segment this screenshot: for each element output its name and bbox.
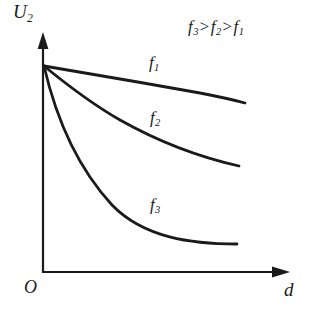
greater-than-icon: > (200, 17, 210, 36)
x-axis-arrow-icon (272, 266, 290, 277)
curve-label-f1: f1 (149, 54, 159, 71)
greater-than-icon: > (223, 17, 233, 36)
figure-container: U2 d O f3>f2>f1 f1 f2 f3 (0, 0, 311, 315)
y-axis-label: U2 (13, 2, 33, 21)
legend-relation-annotation: f3>f2>f1 (188, 18, 244, 35)
x-axis (43, 266, 290, 277)
curve-f1 (44, 66, 245, 103)
curve-label-f3: f3 (150, 196, 160, 213)
x-axis-label: d (284, 280, 294, 299)
y-axis-arrow-icon (38, 32, 49, 49)
plot-area (0, 0, 311, 315)
origin-label: O (24, 278, 37, 296)
curve-label-f2: f2 (150, 109, 160, 126)
curve-f3 (44, 66, 237, 244)
